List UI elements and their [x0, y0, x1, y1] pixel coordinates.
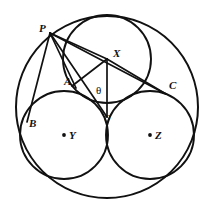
point-label-Y: Y	[69, 130, 76, 141]
point-label-P: P	[39, 23, 46, 34]
segments-group	[27, 33, 166, 122]
segment-X-C	[107, 59, 166, 94]
point-label-Z: Z	[155, 130, 162, 141]
point-label-O: O	[104, 114, 111, 123]
geometry-canvas	[0, 0, 213, 216]
angle-theta-label: θ	[96, 85, 101, 96]
center-dot-Y	[62, 133, 66, 137]
center-dot-Z	[148, 133, 152, 137]
point-label-A: A	[64, 76, 71, 87]
point-label-X: X	[113, 48, 120, 59]
segment-P-A	[50, 33, 76, 88]
point-label-C: C	[169, 80, 176, 91]
point-label-B: B	[29, 118, 36, 129]
geometry-figure: PXACBOYZ θ	[0, 0, 213, 216]
